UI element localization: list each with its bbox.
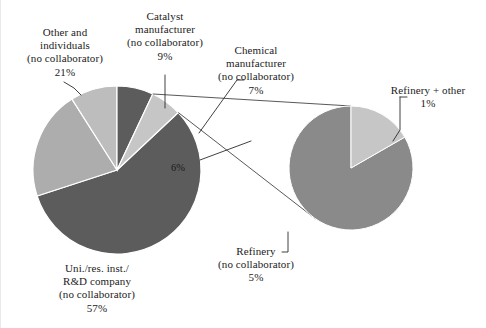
- label-chemical-manufacturer: Chemical manufacturer (no collaborator) …: [198, 44, 314, 97]
- label-refinery-plus-other-value: 1%: [373, 97, 483, 110]
- leader-other-individuals: [64, 82, 81, 95]
- label-refinery-no-collaborator: Refinery (no collaborator) 5%: [198, 245, 314, 285]
- label-other-individuals: Other and individuals (no collaborator) …: [7, 26, 123, 79]
- label-refinery-plus-other: Refinery + other 1%: [373, 84, 483, 110]
- label-six-percent-inside: 6%: [171, 162, 185, 173]
- label-catalyst-manufacturer-line2: manufacturer: [107, 23, 223, 36]
- secondary-pie: [289, 106, 413, 230]
- label-other-individuals-value: 21%: [7, 66, 123, 79]
- label-chemical-manufacturer-value: 7%: [198, 84, 314, 97]
- label-chemical-manufacturer-line3: (no collaborator): [198, 70, 314, 83]
- label-catalyst-manufacturer-line1: Catalyst: [107, 10, 223, 23]
- label-chemical-manufacturer-line1: Chemical: [198, 44, 314, 57]
- label-uni-res-rd-line1: Uni./res. inst./: [39, 262, 155, 275]
- label-uni-res-rd-line3: (no collaborator): [39, 288, 155, 301]
- label-refinery-no-collaborator-line2: (no collaborator): [198, 258, 314, 271]
- label-uni-res-rd: Uni./res. inst./ R&D company (no collabo…: [39, 262, 155, 315]
- leader-six-percent: [200, 141, 251, 160]
- label-refinery-no-collaborator-line1: Refinery: [198, 245, 314, 258]
- label-refinery-plus-other-line1: Refinery + other: [373, 84, 483, 97]
- label-uni-res-rd-line2: R&D company: [39, 275, 155, 288]
- label-other-individuals-line2: individuals: [7, 39, 123, 52]
- label-chemical-manufacturer-line2: manufacturer: [198, 57, 314, 70]
- label-other-individuals-line3: (no collaborator): [7, 52, 123, 65]
- pie-chart-figure: Other and individuals (no collaborator) …: [0, 0, 486, 328]
- label-other-individuals-line1: Other and: [7, 26, 123, 39]
- label-refinery-no-collaborator-value: 5%: [198, 271, 314, 284]
- label-uni-res-rd-value: 57%: [39, 302, 155, 315]
